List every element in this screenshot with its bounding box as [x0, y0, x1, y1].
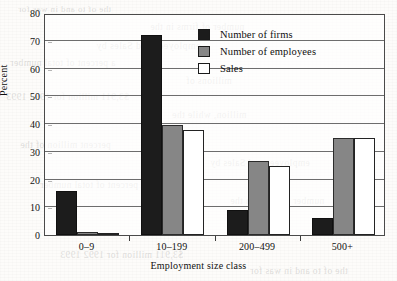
bar-firms-1 — [141, 35, 162, 235]
bar-employees-0 — [77, 232, 98, 235]
bar-sales-2 — [269, 166, 290, 235]
bar-sales-1 — [183, 130, 204, 235]
y-tick-label: 30 — [14, 148, 40, 158]
legend-swatch-sales-icon — [198, 63, 210, 74]
y-axis-ticks: 01020304050607080 — [10, 14, 40, 236]
y-axis-title: Percent — [0, 65, 9, 96]
scanned-chart-page: the of to and in was for number of firms… — [0, 0, 397, 281]
y-tick-label: 10 — [14, 203, 40, 213]
x-tick-mark — [300, 236, 301, 241]
legend-label-employees: Number of employees — [220, 46, 316, 57]
bar-sales-3 — [354, 138, 375, 235]
legend-swatch-employees-icon — [198, 46, 210, 57]
y-tick-label: 80 — [14, 9, 40, 19]
bar-firms-2 — [227, 210, 248, 235]
chart-legend: Number of firms Number of employees Sale… — [198, 26, 316, 77]
y-tick-label: 60 — [14, 65, 40, 75]
x-category-label: 0–9 — [79, 241, 95, 252]
bar-firms-3 — [312, 218, 333, 235]
bar-employees-3 — [333, 138, 354, 235]
legend-entry-firms: Number of firms — [198, 26, 316, 43]
legend-label-firms: Number of firms — [220, 29, 293, 40]
bar-employees-1 — [162, 125, 183, 235]
y-tick-label: 40 — [14, 120, 40, 130]
legend-swatch-firms-icon — [198, 29, 210, 40]
y-tick-label: 0 — [14, 231, 40, 241]
x-category-label: 200–499 — [239, 241, 275, 252]
legend-entry-sales: Sales — [198, 60, 316, 77]
bar-sales-0 — [98, 233, 119, 235]
x-category-label: 500+ — [332, 241, 353, 252]
x-tick-mark — [215, 236, 216, 241]
bar-employees-2 — [248, 161, 269, 235]
bar-firms-0 — [56, 191, 77, 235]
bar-chart: Percent 01020304050607080 0–910–199200–4… — [0, 0, 397, 281]
x-category-label: 10–199 — [156, 241, 187, 252]
y-tick-label: 70 — [14, 37, 40, 47]
x-axis-title: Employment size class — [0, 260, 397, 271]
y-tick-label: 50 — [14, 92, 40, 102]
y-tick-label: 20 — [14, 176, 40, 186]
legend-label-sales: Sales — [220, 63, 243, 74]
legend-entry-employees: Number of employees — [198, 43, 316, 60]
x-tick-mark — [129, 236, 130, 241]
